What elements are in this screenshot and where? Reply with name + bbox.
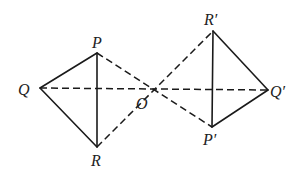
point-label-r-prime: R′: [203, 11, 218, 28]
segment-p-q: [40, 53, 97, 88]
point-label-p: P: [91, 34, 102, 51]
point-label-q: Q: [18, 81, 30, 98]
segment-q-prime-p-prime: [212, 90, 268, 127]
point-label-o: O: [136, 95, 148, 112]
segment-r-prime-p-prime: [212, 31, 213, 127]
point-label-r: R: [90, 152, 101, 169]
segment-r-prime-q-prime: [213, 31, 268, 90]
point-label-q-prime: Q′: [270, 83, 286, 100]
segment-q-r: [40, 88, 97, 147]
geometry-diagram: P Q R O R′ Q′ P′: [0, 0, 302, 171]
point-label-p-prime: P′: [202, 131, 217, 148]
